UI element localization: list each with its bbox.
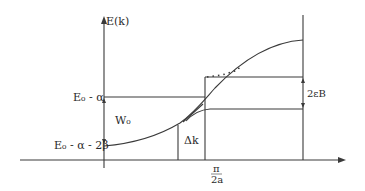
gap-up-arrow-icon	[301, 78, 305, 83]
x-tick-denominator: 2a	[211, 174, 223, 185]
width-label: W₀	[115, 114, 131, 127]
lower-split-line	[186, 109, 303, 121]
x-tick-numerator: π	[213, 163, 220, 174]
level-top-label: E₀ - α	[73, 91, 104, 104]
y-axis-label: E(k)	[106, 15, 129, 28]
band-curve	[104, 40, 303, 146]
x-axis-arrow-icon	[338, 157, 346, 163]
gap-label: 2εB	[307, 88, 326, 99]
tangent-line	[183, 104, 203, 122]
band-diagram: E(k) E₀ - α E₀ - α - 2β W₀ 2εB Δk π 2a	[0, 0, 365, 191]
gap-down-arrow-icon	[301, 103, 305, 108]
delta-k-label: Δk	[184, 134, 199, 147]
level-bottom-label: E₀ - α - 2β	[54, 139, 109, 152]
dotted-curve	[207, 66, 240, 77]
